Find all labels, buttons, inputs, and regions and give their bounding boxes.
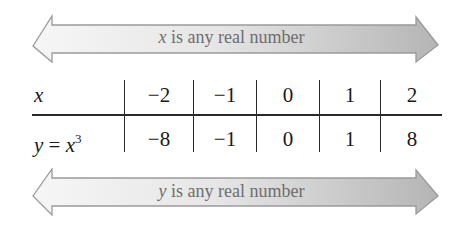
y-range-label: y is any real number bbox=[0, 181, 463, 201]
y-value: 0 bbox=[258, 127, 318, 151]
column-divider bbox=[193, 80, 194, 152]
y-value: 1 bbox=[321, 127, 379, 151]
value-table: x y = x3 −2 −1 0 1 2 −8 −1 0 1 8 bbox=[0, 76, 463, 160]
x-domain-label: x is any real number bbox=[0, 27, 463, 47]
y-range-arrow: y is any real number bbox=[0, 168, 463, 218]
row-header-y: y = x3 bbox=[34, 127, 82, 157]
x-domain-arrow: x is any real number bbox=[0, 14, 463, 64]
column-divider bbox=[124, 80, 125, 152]
y-value: 8 bbox=[382, 127, 442, 151]
y-value: −8 bbox=[128, 127, 190, 151]
x-value: 2 bbox=[382, 83, 442, 107]
x-value: 1 bbox=[321, 83, 379, 107]
y-value: −1 bbox=[196, 127, 254, 151]
x-value: −1 bbox=[196, 83, 254, 107]
x-value: 0 bbox=[258, 83, 318, 107]
row-header-x: x bbox=[34, 83, 43, 107]
x-value: −2 bbox=[128, 83, 190, 107]
